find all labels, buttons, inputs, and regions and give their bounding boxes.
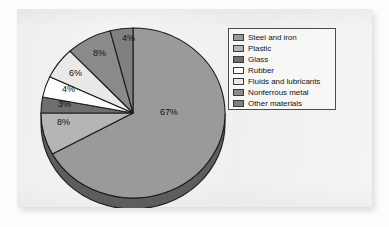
legend-swatch-icon: [233, 34, 244, 41]
legend-item-label: Nonferrous metal: [248, 89, 309, 97]
legend-swatch-icon: [233, 78, 244, 85]
legend-swatch-icon: [233, 100, 244, 107]
legend-item-label: Rubber: [248, 67, 274, 75]
pie-chart: 67%8%3%4%6%8%4% Steel and ironPlasticGla…: [0, 0, 389, 227]
legend-item: Glass: [233, 54, 331, 65]
legend-item-label: Plastic: [248, 45, 271, 53]
legend-swatch-icon: [233, 67, 244, 74]
legend-item-label: Fluids and lubricants: [248, 78, 320, 86]
slice-value-label: 4%: [122, 34, 135, 43]
slice-value-label: 8%: [93, 49, 106, 58]
legend-item: Steel and iron: [233, 32, 331, 43]
legend-swatch-icon: [233, 56, 244, 63]
slice-value-label: 4%: [62, 85, 75, 94]
legend-item: Nonferrous metal: [233, 87, 331, 98]
legend-item-label: Steel and iron: [248, 34, 297, 42]
legend-item: Other materials: [233, 98, 331, 109]
legend: Steel and ironPlasticGlassRubberFluids a…: [228, 28, 336, 110]
slice-value-label: 8%: [57, 118, 70, 127]
legend-swatch-icon: [233, 89, 244, 96]
legend-item: Rubber: [233, 65, 331, 76]
figure-root: 67%8%3%4%6%8%4% Steel and ironPlasticGla…: [0, 0, 389, 227]
legend-item: Plastic: [233, 43, 331, 54]
slice-value-label: 3%: [58, 100, 71, 109]
legend-item-label: Glass: [248, 56, 268, 64]
legend-item: Fluids and lubricants: [233, 76, 331, 87]
pie-chart-svg: [26, 18, 242, 208]
slice-value-label: 67%: [160, 108, 178, 117]
legend-swatch-icon: [233, 45, 244, 52]
legend-item-label: Other materials: [248, 100, 302, 108]
slice-value-label: 6%: [69, 69, 82, 78]
pie-slices: [41, 28, 225, 198]
